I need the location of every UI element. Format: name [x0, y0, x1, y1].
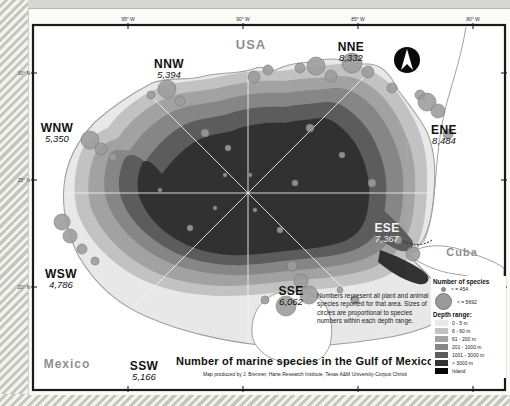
species-bubble — [300, 286, 318, 304]
species-bubble — [261, 296, 269, 304]
species-bubble — [306, 124, 314, 132]
species-bubble — [248, 71, 260, 83]
species-bubble — [175, 96, 185, 106]
species-bubble — [394, 236, 402, 244]
species-bubble — [431, 104, 445, 118]
species-bubble — [337, 287, 343, 293]
species-bubble — [91, 257, 99, 265]
species-bubble — [223, 173, 227, 177]
species-bubble — [253, 208, 257, 212]
species-bubble — [277, 227, 283, 233]
species-bubble — [54, 214, 70, 230]
species-bubble — [95, 143, 107, 155]
species-bubble — [287, 261, 297, 271]
species-bubble — [294, 274, 308, 288]
species-bubble — [201, 129, 209, 137]
species-bubble — [158, 188, 162, 192]
species-bubble — [63, 229, 77, 243]
species-bubble — [77, 244, 87, 254]
species-bubble — [292, 180, 298, 186]
species-bubble — [213, 206, 217, 210]
species-bubble — [325, 70, 337, 82]
species-bubble — [362, 66, 374, 78]
species-bubble — [147, 91, 155, 99]
species-bubble — [187, 225, 193, 231]
species-bubble — [406, 247, 420, 261]
species-bubble — [276, 296, 296, 316]
species-bubble — [351, 296, 359, 304]
species-bubble — [368, 179, 376, 187]
species-bubble — [109, 153, 117, 161]
species-bubble — [387, 83, 397, 93]
species-bubble — [307, 57, 325, 75]
species-bubble — [225, 145, 231, 151]
species-bubble — [295, 63, 305, 73]
species-bubble — [443, 129, 453, 139]
species-bubble — [263, 65, 273, 75]
species-bubble — [342, 53, 362, 73]
species-bubble — [158, 80, 176, 98]
species-bubble — [248, 173, 252, 177]
species-bubble — [339, 152, 345, 158]
